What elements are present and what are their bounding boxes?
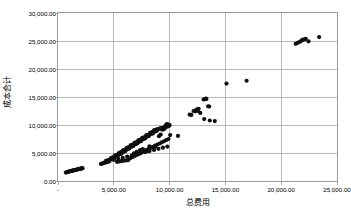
x-tick-label: 5,000.00 xyxy=(102,186,126,193)
data-point xyxy=(202,117,206,121)
data-point xyxy=(125,155,129,159)
data-point xyxy=(161,146,165,150)
data-point xyxy=(130,153,134,157)
data-point xyxy=(166,137,170,141)
data-point xyxy=(107,159,111,163)
data-point xyxy=(224,81,228,85)
x-tick-label: 20,000.00 xyxy=(267,186,295,193)
data-point xyxy=(198,111,202,115)
plot-area xyxy=(57,12,338,182)
x-axis-title: 总费用 xyxy=(57,198,338,207)
x-tick-label: 10,000.00 xyxy=(156,186,184,193)
data-point xyxy=(143,150,147,154)
data-point xyxy=(147,149,151,153)
gridlines xyxy=(58,13,337,181)
x-tick-label: 25,000.00 xyxy=(323,186,351,193)
data-point xyxy=(121,156,125,160)
data-point xyxy=(245,79,249,83)
data-point xyxy=(306,39,310,43)
data-point xyxy=(103,160,107,164)
data-point xyxy=(197,107,201,111)
data-point xyxy=(112,158,116,162)
data-point xyxy=(207,104,211,108)
plot-canvas xyxy=(58,13,337,181)
data-point xyxy=(160,128,164,132)
data-point xyxy=(152,148,156,152)
data-point xyxy=(147,144,151,148)
data-point xyxy=(156,147,160,151)
data-point xyxy=(159,132,163,136)
data-points xyxy=(64,35,322,175)
x-tick-label: - xyxy=(57,186,59,193)
data-point xyxy=(134,152,138,156)
data-point xyxy=(204,97,208,101)
data-point xyxy=(317,35,321,39)
data-point xyxy=(165,144,169,148)
data-point xyxy=(176,134,180,138)
x-tick-label: 15,000.00 xyxy=(212,186,240,193)
data-point xyxy=(189,113,193,117)
data-point xyxy=(208,118,212,122)
data-point xyxy=(168,133,172,137)
data-point xyxy=(138,151,142,155)
data-point xyxy=(80,166,84,170)
data-point xyxy=(213,119,217,123)
data-point xyxy=(116,157,120,161)
